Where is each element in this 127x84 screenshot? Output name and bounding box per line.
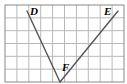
segment-df <box>27 11 60 82</box>
vertex-label-f: F <box>62 62 69 73</box>
vertex-label-e: E <box>104 6 111 17</box>
geometry-figure: D E F <box>0 0 127 84</box>
vertex-label-d: D <box>30 6 38 17</box>
